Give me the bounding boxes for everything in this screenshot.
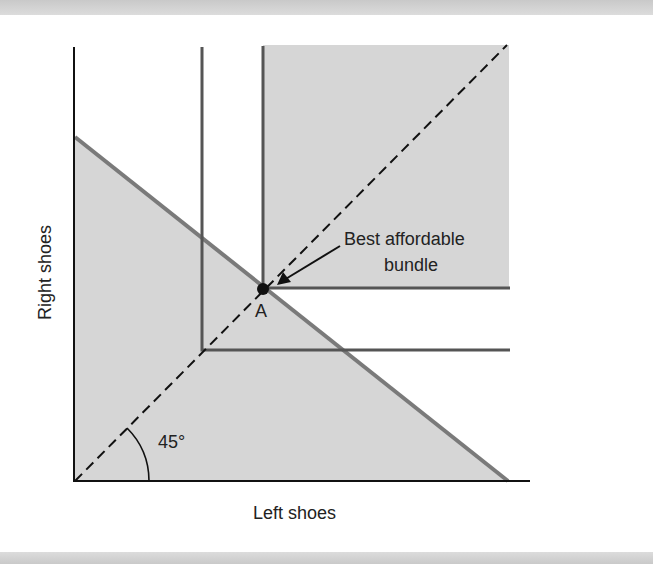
best-bundle-point [257, 283, 269, 295]
point-label: A [255, 301, 267, 321]
y-axis-label: Right shoes [35, 225, 55, 320]
angle-label: 45° [158, 432, 185, 452]
annotation-text-line2: bundle [384, 255, 438, 275]
x-axis-label: Left shoes [253, 503, 336, 523]
perfect-complements-diagram: A Best affordable bundle 45° Left shoes … [0, 0, 653, 564]
annotation-text-line1: Best affordable [344, 229, 465, 249]
